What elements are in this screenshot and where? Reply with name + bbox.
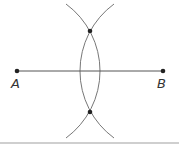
label-A: A	[10, 76, 20, 91]
label-B: B	[157, 76, 166, 91]
intersection-top	[88, 29, 93, 34]
construction-diagram: A B	[0, 0, 179, 146]
point-A	[15, 69, 20, 74]
intersection-bottom	[88, 110, 93, 115]
point-B	[161, 69, 166, 74]
